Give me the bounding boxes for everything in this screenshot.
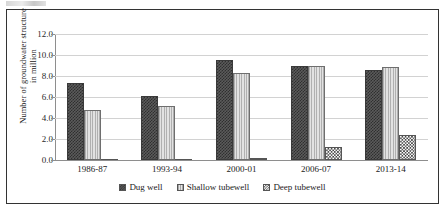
x-axis-tick-label: 1993-94 — [130, 164, 205, 174]
bar[interactable] — [216, 60, 233, 160]
legend-swatch-icon — [177, 184, 184, 191]
bar[interactable] — [382, 67, 399, 160]
y-axis-tick-label: 12.0 — [27, 29, 53, 39]
legend-label: Deep tubewell — [273, 182, 325, 192]
chart-legend: Dug wellShallow tubewellDeep tubewell — [7, 182, 438, 192]
bar[interactable] — [101, 159, 118, 160]
x-axis-tick-label: 1986-87 — [55, 164, 130, 174]
bar-group — [130, 34, 205, 160]
legend-swatch-icon — [119, 184, 126, 191]
x-axis-tick-label: 2006-07 — [279, 164, 354, 174]
x-axis-tick-label: 2013-14 — [353, 164, 428, 174]
bar[interactable] — [291, 66, 308, 161]
y-axis-tick-label: 4.0 — [27, 113, 53, 123]
bar-group — [55, 34, 130, 160]
axis-baseline — [55, 160, 428, 161]
y-axis-tick-label: 2.0 — [27, 134, 53, 144]
x-axis-tick-label: 2000-01 — [204, 164, 279, 174]
legend-label: Shallow tubewell — [187, 182, 250, 192]
legend-item[interactable]: Shallow tubewell — [177, 182, 250, 192]
bar[interactable] — [158, 106, 175, 160]
bar[interactable] — [308, 66, 325, 160]
bar[interactable] — [84, 110, 101, 160]
bar[interactable] — [141, 96, 158, 160]
legend-item[interactable]: Deep tubewell — [263, 182, 325, 192]
y-axis-tick-label: 8.0 — [27, 71, 53, 81]
bar[interactable] — [399, 135, 416, 160]
bar[interactable] — [325, 147, 342, 160]
bar-group — [353, 34, 428, 160]
bar[interactable] — [233, 73, 250, 160]
y-axis-tick-label: 0.0 — [27, 155, 53, 165]
x-axis-tick-labels: 1986-871993-942000-012006-072013-14 — [55, 164, 428, 174]
bar[interactable] — [250, 158, 267, 160]
y-axis-tickmark — [51, 160, 55, 161]
bar-groups — [55, 34, 428, 160]
y-axis-tick-labels: 0.02.04.06.08.010.012.0 — [25, 10, 53, 203]
bar-group — [204, 34, 279, 160]
plot-area: Number of groundwater structure in milli… — [7, 10, 438, 203]
y-axis-tick-label: 6.0 — [27, 92, 53, 102]
bar[interactable] — [67, 83, 84, 160]
bar[interactable] — [365, 70, 382, 160]
chart-figure: Number of groundwater structure in milli… — [6, 9, 439, 204]
legend-swatch-icon — [263, 184, 270, 191]
legend-label: Dug well — [129, 182, 162, 192]
bar[interactable] — [175, 159, 192, 160]
chart-canvas — [55, 34, 428, 160]
legend-item[interactable]: Dug well — [119, 182, 162, 192]
y-axis-tick-label: 10.0 — [27, 50, 53, 60]
bar-group — [279, 34, 354, 160]
